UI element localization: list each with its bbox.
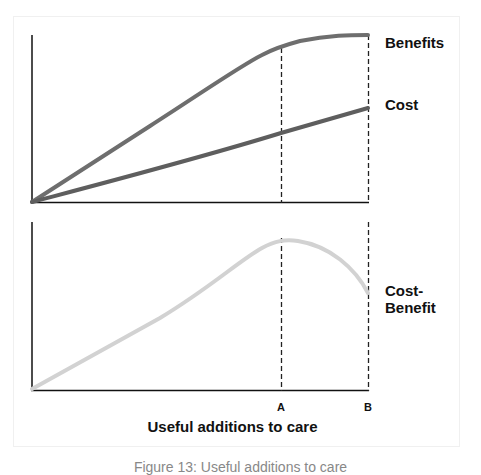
- benefits-line: [32, 35, 368, 202]
- cost-benefit-line: [32, 240, 368, 389]
- benefits-label: Benefits: [385, 34, 444, 52]
- cost-label: Cost: [385, 96, 418, 114]
- cost-benefit-label-line2: Benefit: [385, 299, 436, 317]
- figure-caption: Figure 13: Useful additions to care: [0, 459, 481, 475]
- x-axis-label: Useful additions to care: [0, 418, 473, 435]
- x-tick-b: B: [364, 401, 372, 413]
- cost-benefit-label-line1: Cost-: [385, 282, 423, 300]
- x-tick-a: A: [277, 401, 285, 413]
- cost-line: [32, 108, 368, 202]
